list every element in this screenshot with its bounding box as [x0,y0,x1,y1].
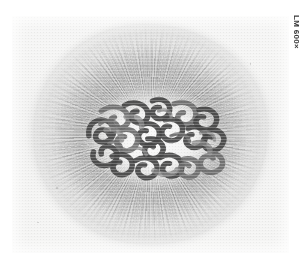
magnification-label: LM 600× [290,6,302,58]
micrograph-image [12,16,289,253]
chromosome-tangle [78,85,233,194]
magnification-label-text: LM 600× [292,15,301,49]
figure-root: LM 600× [0,0,304,270]
chromosome-threads-svg [78,85,233,194]
